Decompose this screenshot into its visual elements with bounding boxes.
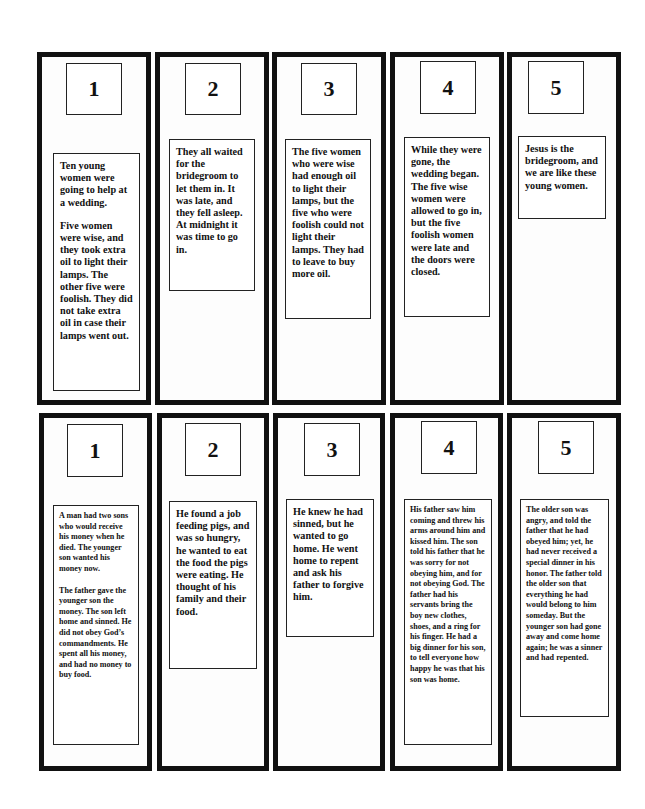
- top-panel-1: 1 Ten young women were going to help at …: [37, 52, 151, 405]
- panel-paragraph: The five women who were wise had enough …: [292, 146, 364, 280]
- bottom-panel-5: 5 The older son was angry, and told the …: [507, 413, 621, 771]
- top-panel-2: 2 They all waited for the bridegroom to …: [155, 52, 269, 405]
- panel-paragraph: While they were gone, the wedding began.…: [411, 144, 483, 278]
- panel-text-box: He found a job feeding pigs, and was so …: [169, 501, 257, 669]
- panel-number-box: 2: [185, 63, 241, 115]
- panel-text-box: The five women who were wise had enough …: [285, 139, 371, 319]
- panel-number-box: 1: [66, 63, 122, 115]
- panel-number: 3: [324, 76, 335, 102]
- top-panel-3: 3 The five women who were wise had enoug…: [272, 52, 386, 405]
- panel-number-box: 3: [304, 423, 360, 476]
- panel-number-box: 2: [185, 423, 241, 476]
- bottom-panel-3: 3 He knew he had sinned, but he wanted t…: [273, 413, 385, 771]
- panel-text-box: The older son was angry, and told the fa…: [520, 499, 609, 717]
- panel-text-box: Ten young women were going to help at a …: [53, 153, 140, 391]
- panel-paragraph: A man had two sons who would receive his…: [59, 511, 133, 575]
- panel-text-box: His father saw him coming and threw his …: [404, 499, 492, 745]
- panel-number: 4: [443, 75, 454, 101]
- panel-number: 4: [444, 435, 455, 461]
- panel-number: 5: [551, 75, 562, 101]
- panel-text-box: They all waited for the bridegroom to le…: [169, 139, 255, 291]
- panel-number-box: 4: [421, 421, 477, 474]
- panel-paragraph: His father saw him coming and threw his …: [410, 505, 486, 685]
- bottom-panel-1: 1 A man had two sons who would receive h…: [39, 413, 152, 771]
- panel-number: 3: [327, 437, 338, 463]
- panel-paragraph: The father gave the younger son the mone…: [59, 586, 133, 681]
- panel-number-box: 5: [528, 61, 584, 114]
- panel-number: 5: [561, 435, 572, 461]
- panel-number-box: 1: [67, 424, 123, 477]
- panel-text-box: Jesus is the bridegroom, and we are like…: [518, 136, 606, 219]
- panel-number-box: 5: [538, 421, 594, 474]
- panel-number: 1: [90, 438, 101, 464]
- top-panel-4: 4 While they were gone, the wedding bega…: [390, 52, 504, 405]
- panel-text-box: While they were gone, the wedding began.…: [404, 137, 490, 317]
- panel-number: 1: [89, 76, 100, 102]
- panel-text-box: He knew he had sinned, but he wanted to …: [286, 499, 374, 637]
- bottom-panel-2: 2 He found a job feeding pigs, and was s…: [157, 413, 269, 771]
- top-panel-5: 5 Jesus is the bridegroom, and we are li…: [507, 52, 621, 405]
- panel-number: 2: [208, 437, 219, 463]
- panel-paragraph: Ten young women were going to help at a …: [60, 160, 133, 209]
- panel-number: 2: [208, 76, 219, 102]
- panel-paragraph: He knew he had sinned, but he wanted to …: [293, 506, 367, 604]
- panel-paragraph: The older son was angry, and told the fa…: [526, 505, 603, 664]
- panel-paragraph: He found a job feeding pigs, and was so …: [176, 508, 250, 618]
- bottom-panel-4: 4 His father saw him coming and threw hi…: [390, 413, 503, 771]
- panel-paragraph: Jesus is the bridegroom, and we are like…: [525, 143, 599, 192]
- panel-text-box: A man had two sons who would receive his…: [53, 505, 139, 745]
- panel-paragraph: They all waited for the bridegroom to le…: [176, 146, 248, 256]
- panel-paragraph: Five women were wise, and they took extr…: [60, 220, 133, 342]
- panel-number-box: 3: [301, 63, 357, 115]
- panel-number-box: 4: [420, 61, 476, 114]
